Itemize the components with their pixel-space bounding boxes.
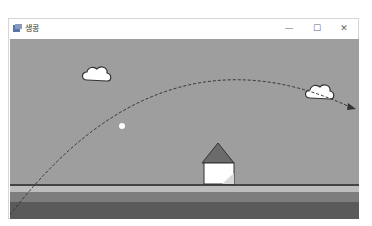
maximize-button[interactable]: ☐ <box>310 22 324 35</box>
title-bar[interactable]: 생콩 — ☐ ✕ <box>9 19 358 39</box>
ground-strip-mid <box>10 192 359 202</box>
scene-graphics <box>10 39 359 219</box>
ground-strip-dark <box>10 202 359 219</box>
game-canvas[interactable] <box>10 39 359 219</box>
cloud-icon <box>83 67 111 81</box>
game-window: 생콩 — ☐ ✕ <box>8 18 359 219</box>
app-icon <box>13 24 22 33</box>
window-title: 생콩 <box>25 23 39 34</box>
arrowhead-icon <box>347 103 356 110</box>
ball <box>119 123 125 129</box>
ground-strip-light <box>10 186 359 192</box>
house-icon <box>202 143 234 184</box>
ground-line <box>10 184 359 186</box>
cloud-icon <box>306 85 334 99</box>
minimize-button[interactable]: — <box>282 22 296 35</box>
close-button[interactable]: ✕ <box>337 22 351 35</box>
